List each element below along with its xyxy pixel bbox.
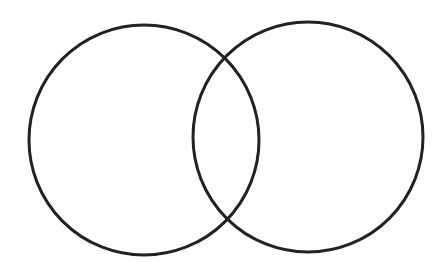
venn-diagram [0, 0, 444, 277]
diagram-background [0, 0, 444, 277]
